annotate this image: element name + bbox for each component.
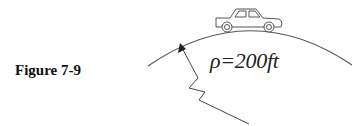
arrowhead-icon bbox=[178, 43, 186, 53]
car-icon bbox=[216, 9, 282, 32]
diagram-canvas bbox=[0, 0, 364, 126]
radius-label: ρ=200ft bbox=[210, 48, 279, 74]
